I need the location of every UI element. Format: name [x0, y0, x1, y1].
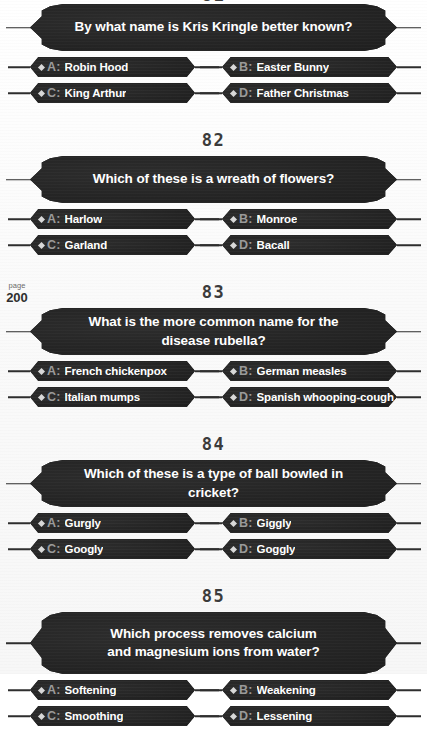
question-connector-line-right — [395, 331, 421, 333]
block-spacer — [0, 565, 427, 579]
answer-connector-line-left — [8, 244, 30, 246]
answer-text: Weakening — [257, 684, 316, 696]
answer-connector-line-left — [8, 715, 30, 717]
answer-connector-line-right — [397, 92, 421, 94]
answer-option-c[interactable]: C:King Arthur — [30, 83, 195, 103]
question-connector-line-right — [395, 179, 421, 181]
answer-text: Robin Hood — [65, 61, 129, 73]
answer-bar-body[interactable]: B:German measles — [222, 361, 397, 381]
answer-option-d[interactable]: D:Father Christmas — [222, 83, 397, 103]
answer-letter: A: — [47, 212, 61, 226]
answer-connector-line-right — [397, 370, 421, 372]
answer-option-c[interactable]: C:Googly — [30, 539, 195, 559]
answer-bar-body[interactable]: D:Bacall — [222, 235, 397, 255]
answer-connector-line-left — [200, 66, 222, 68]
answer-bar-body[interactable]: C:Italian mumps — [30, 387, 195, 407]
question-bar-body: What is the more common name for the dis… — [30, 308, 397, 355]
answer-letter: B: — [239, 683, 253, 697]
diamond-bullet-icon — [38, 686, 45, 693]
diamond-bullet-icon — [230, 393, 237, 400]
question-connector-line-left — [6, 642, 32, 644]
page-marker-number: 200 — [2, 291, 32, 304]
page-marker-label: page — [2, 282, 32, 290]
answer-row: A:French chickenpoxB:German measles — [0, 361, 427, 381]
answer-bar-body[interactable]: D:Father Christmas — [222, 83, 397, 103]
answer-connector-line-left — [200, 396, 222, 398]
answer-row: A:SofteningB:Weakening — [0, 680, 427, 700]
answer-text: Gurgly — [65, 517, 101, 529]
answer-bar-body[interactable]: A:Softening — [30, 680, 195, 700]
answer-connector-line-right — [397, 66, 421, 68]
answer-option-a[interactable]: A:Harlow — [30, 209, 195, 229]
question-number: 85 — [0, 579, 427, 612]
answer-option-b[interactable]: B:Giggly — [222, 513, 397, 533]
answer-bar-body[interactable]: D:Lessening — [222, 706, 397, 726]
answer-bar-body[interactable]: A:Gurgly — [30, 513, 195, 533]
answer-option-c[interactable]: C:Italian mumps — [30, 387, 195, 407]
answer-letter: C: — [47, 238, 61, 252]
answer-text: Italian mumps — [65, 391, 140, 403]
question-bar: By what name is Kris Kringle better know… — [0, 4, 427, 51]
diamond-bullet-icon — [230, 712, 237, 719]
diamond-bullet-icon — [230, 215, 237, 222]
answer-connector-line-left — [200, 244, 222, 246]
answer-text: Harlow — [65, 213, 102, 225]
answer-option-a[interactable]: A:Softening — [30, 680, 195, 700]
answer-bar-body[interactable]: A:Harlow — [30, 209, 195, 229]
answer-row: C:King ArthurD:Father Christmas — [0, 83, 427, 103]
answer-connector-line-right — [397, 689, 421, 691]
answer-text: German measles — [257, 365, 347, 377]
answer-bar-body[interactable]: C:Garland — [30, 235, 195, 255]
diamond-bullet-icon — [230, 367, 237, 374]
question-block: 81By what name is Kris Kringle better kn… — [0, 0, 427, 123]
answer-letter: D: — [239, 238, 253, 252]
answer-option-d[interactable]: D:Lessening — [222, 706, 397, 726]
question-connector-line-right — [395, 27, 421, 29]
answer-bar-body[interactable]: D:Spanish whooping-cough — [222, 387, 397, 407]
answer-letter: B: — [239, 212, 253, 226]
answer-bar-body[interactable]: B:Monroe — [222, 209, 397, 229]
answer-bar-body[interactable]: A:French chickenpox — [30, 361, 195, 381]
answer-letter: C: — [47, 542, 61, 556]
answer-option-c[interactable]: C:Garland — [30, 235, 195, 255]
answer-option-b[interactable]: B:Weakening — [222, 680, 397, 700]
answer-bar-body[interactable]: C:Smoothing — [30, 706, 195, 726]
answer-connector-line-right — [397, 548, 421, 550]
answer-bar-body[interactable]: A:Robin Hood — [30, 57, 195, 77]
answer-option-b[interactable]: B:Easter Bunny — [222, 57, 397, 77]
answer-letter: D: — [239, 390, 253, 404]
answer-bar-body[interactable]: C:King Arthur — [30, 83, 195, 103]
answer-bar-body[interactable]: D:Goggly — [222, 539, 397, 559]
answer-connector-line-left — [8, 92, 30, 94]
question-bar: Which of these is a type of ball bowled … — [0, 460, 427, 507]
question-text: By what name is Kris Kringle better know… — [41, 18, 387, 36]
answer-option-c[interactable]: C:Smoothing — [30, 706, 195, 726]
answer-connector-line-left — [8, 548, 30, 550]
answer-connector-line-left — [8, 689, 30, 691]
question-block: 83What is the more common name for the d… — [0, 275, 427, 427]
diamond-bullet-icon — [38, 519, 45, 526]
answer-letter: A: — [47, 683, 61, 697]
diamond-bullet-icon — [230, 241, 237, 248]
answer-grid: A:Robin HoodB:Easter BunnyC:King ArthurD… — [0, 51, 427, 103]
answer-option-a[interactable]: A:Gurgly — [30, 513, 195, 533]
answer-bar-body[interactable]: C:Googly — [30, 539, 195, 559]
answer-letter: B: — [239, 364, 253, 378]
answer-bar-body[interactable]: B:Giggly — [222, 513, 397, 533]
answer-option-d[interactable]: D:Spanish whooping-cough — [222, 387, 397, 407]
block-spacer — [0, 109, 427, 123]
answer-connector-line-left — [200, 370, 222, 372]
quiz-page: 81By what name is Kris Kringle better kn… — [0, 0, 427, 730]
diamond-bullet-icon — [38, 89, 45, 96]
answer-option-d[interactable]: D:Goggly — [222, 539, 397, 559]
answer-option-d[interactable]: D:Bacall — [222, 235, 397, 255]
answer-option-b[interactable]: B:Monroe — [222, 209, 397, 229]
answer-bar-body[interactable]: B:Weakening — [222, 680, 397, 700]
answer-bar-body[interactable]: B:Easter Bunny — [222, 57, 397, 77]
question-bar-body: Which of these is a wreath of flowers? — [30, 156, 397, 203]
question-connector-line-left — [6, 331, 32, 333]
answer-letter: A: — [47, 60, 61, 74]
answer-option-b[interactable]: B:German measles — [222, 361, 397, 381]
answer-option-a[interactable]: A:Robin Hood — [30, 57, 195, 77]
answer-option-a[interactable]: A:French chickenpox — [30, 361, 195, 381]
